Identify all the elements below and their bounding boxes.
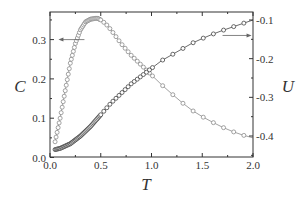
data-point [66,72,70,76]
y-tick-label: 0.1 [32,112,46,124]
y2-tick-label: -0.4 [256,130,274,142]
data-point [181,101,185,105]
data-point [161,84,165,88]
data-point [105,106,109,110]
data-point [68,61,72,65]
dual-axis-chart: 0.00.51.01.52.00.00.10.20.3-0.1-0.2-0.3-… [0,0,300,200]
data-point [105,23,109,27]
x-axis-title: T [141,175,152,194]
data-point [126,50,130,54]
data-point [60,105,64,109]
data-point [171,52,175,56]
data-point [117,39,121,43]
y2-tick-label: -0.2 [256,53,273,65]
data-point [171,93,175,97]
y2-tick-label: -0.3 [256,91,274,103]
data-point [211,32,215,36]
data-point [120,43,124,47]
x-tick-label: 2.0 [246,159,260,171]
x-tick-label: 1.5 [195,159,209,171]
data-point [211,121,215,125]
data-point [59,111,63,115]
data-point [181,46,185,50]
data-point [99,113,103,117]
data-point [62,94,66,98]
data-point [108,27,112,31]
data-point [57,121,61,125]
x-tick-label: 1.0 [145,159,159,171]
data-point [161,58,165,62]
data-point [151,74,155,78]
data-point [55,130,59,134]
data-point [54,135,58,139]
data-point [111,31,115,35]
data-point [71,49,75,53]
data-point [67,67,71,71]
data-point [151,66,155,70]
series-layer [53,16,253,151]
data-point [64,83,68,87]
data-point [232,25,236,29]
data-point [69,57,73,61]
data-point [56,126,60,130]
data-point [58,116,62,120]
data-point [72,45,76,49]
data-point [61,100,65,104]
data-point [123,46,127,50]
data-point [201,36,205,40]
data-point [114,35,118,39]
y-tick-label: 0.0 [32,152,46,164]
data-point [222,126,226,130]
data-point [102,109,106,113]
data-point [191,41,195,45]
y-tick-label: 0.2 [32,73,46,85]
x-tick-label: 0.5 [94,159,108,171]
data-point [201,115,205,119]
data-point [242,133,246,137]
data-point [65,78,69,82]
data-point [222,28,226,32]
y2-axis-title: U [282,77,296,96]
y-tick-label: 0.3 [32,34,46,46]
data-point [53,140,57,144]
y-axis-title: C [14,77,26,96]
data-point [63,89,67,93]
data-point [242,21,246,25]
y2-tick-label: -0.1 [256,14,273,26]
data-point [232,130,236,134]
data-point [191,109,195,113]
data-point [70,53,74,57]
